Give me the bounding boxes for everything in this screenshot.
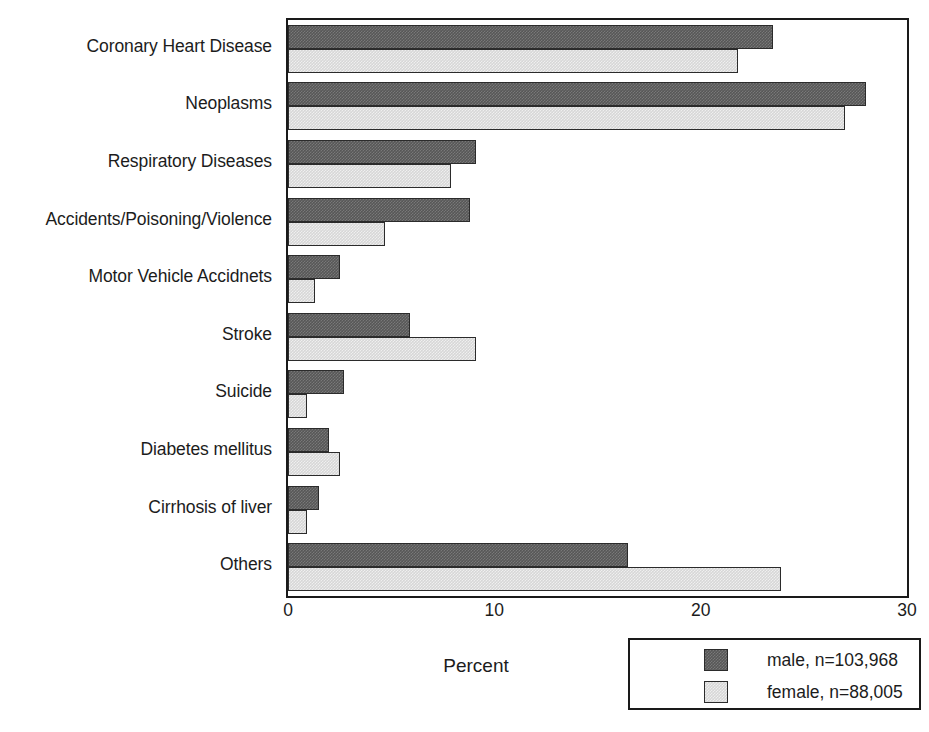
category-label: Respiratory Diseases xyxy=(0,153,272,171)
category-label: Neoplasms xyxy=(0,95,272,113)
bar-female xyxy=(288,510,307,534)
legend-swatch-male-icon xyxy=(704,649,728,671)
x-tick-label: 30 xyxy=(897,602,916,620)
bar-male xyxy=(288,82,866,106)
x-tick-label: 0 xyxy=(283,602,293,620)
category-label: Stroke xyxy=(0,326,272,344)
category-axis: Coronary Heart DiseaseNeoplasmsRespirato… xyxy=(0,18,272,598)
bar-male xyxy=(288,255,340,279)
legend-item-female: female, n=88,005 xyxy=(630,677,919,707)
bar-female xyxy=(288,279,315,303)
bar-female xyxy=(288,337,476,361)
bar-group xyxy=(288,78,907,136)
category-label: Suicide xyxy=(0,383,272,401)
legend-label-male: male, n=103,968 xyxy=(767,650,898,671)
category-label: Cirrhosis of liver xyxy=(0,499,272,517)
legend-item-male: male, n=103,968 xyxy=(630,645,919,675)
bar-group xyxy=(288,308,907,366)
category-label: Motor Vehicle Accidnets xyxy=(0,268,272,286)
bar-male xyxy=(288,543,628,567)
bar-female xyxy=(288,49,738,73)
bar-group xyxy=(288,135,907,193)
bar-group xyxy=(288,193,907,251)
bar-male xyxy=(288,313,410,337)
plot-area xyxy=(286,18,909,598)
bar-female xyxy=(288,106,845,130)
bar-group xyxy=(288,20,907,78)
legend: male, n=103,968 female, n=88,005 xyxy=(628,638,921,710)
bar-group xyxy=(288,423,907,481)
bar-group xyxy=(288,366,907,424)
bar-male xyxy=(288,428,329,452)
category-label: Others xyxy=(0,556,272,574)
bar-female xyxy=(288,222,385,246)
bar-male xyxy=(288,370,344,394)
bars-container xyxy=(288,20,907,596)
category-label: Coronary Heart Disease xyxy=(0,38,272,56)
legend-label-female: female, n=88,005 xyxy=(767,682,903,703)
bar-group xyxy=(288,481,907,539)
bar-group xyxy=(288,250,907,308)
bar-female xyxy=(288,394,307,418)
bar-female xyxy=(288,164,451,188)
bar-female xyxy=(288,567,781,591)
bar-male xyxy=(288,25,773,49)
bar-male xyxy=(288,486,319,510)
category-label: Diabetes mellitus xyxy=(0,441,272,459)
category-label: Accidents/Poisoning/Violence xyxy=(0,211,272,229)
x-tick-label: 20 xyxy=(691,602,710,620)
bar-group xyxy=(288,538,907,596)
legend-swatch-female-icon xyxy=(704,681,728,703)
bar-male xyxy=(288,198,470,222)
bar-chart: Coronary Heart DiseaseNeoplasmsRespirato… xyxy=(0,0,929,732)
x-axis-title: Percent xyxy=(286,655,666,677)
x-axis: 0102030 xyxy=(286,598,909,632)
x-tick-label: 10 xyxy=(485,602,504,620)
bar-male xyxy=(288,140,476,164)
bar-female xyxy=(288,452,340,476)
